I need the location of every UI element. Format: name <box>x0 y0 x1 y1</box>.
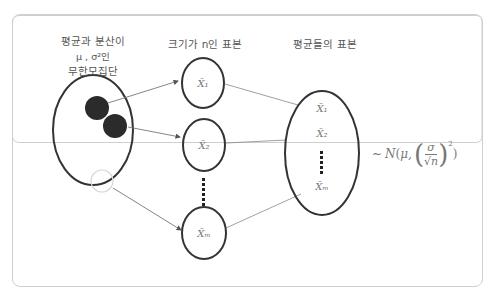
means-title: 평균들의 표본 <box>280 37 370 52</box>
distribution-formula: ~ N ( μ, ( σ √n ) 2 ) <box>372 134 457 174</box>
formula-N: N <box>385 147 396 161</box>
samples-title: 크기가 n인 표본 <box>160 37 250 52</box>
big-paren-open: ( <box>414 141 424 167</box>
population-title-line1: 평균과 분산이 <box>48 34 138 49</box>
fraction-denominator: √n <box>424 155 438 168</box>
mean-label-m: X̄ₘ <box>307 179 337 194</box>
paren-close: ) <box>453 147 458 161</box>
population-title-line2: μ , σ²인 <box>48 49 138 64</box>
sample-label-1: X̄₁ <box>188 76 218 91</box>
sample-label-m: X̄ₘ <box>189 226 219 241</box>
fraction: σ √n <box>424 141 438 168</box>
big-paren-close: ) <box>438 141 448 167</box>
mean-label-2: X̄₂ <box>307 126 337 141</box>
mean-label-1: X̄₁ <box>307 101 337 116</box>
sample-label-2: X̄₂ <box>189 138 219 153</box>
population-title: 평균과 분산이 μ , σ²인 무한모집단 <box>48 34 138 79</box>
population-title-line3: 무한모집단 <box>48 64 138 79</box>
fraction-numerator: σ <box>425 141 437 155</box>
tilde: ~ <box>372 147 382 161</box>
formula-mu: μ, <box>400 147 412 161</box>
